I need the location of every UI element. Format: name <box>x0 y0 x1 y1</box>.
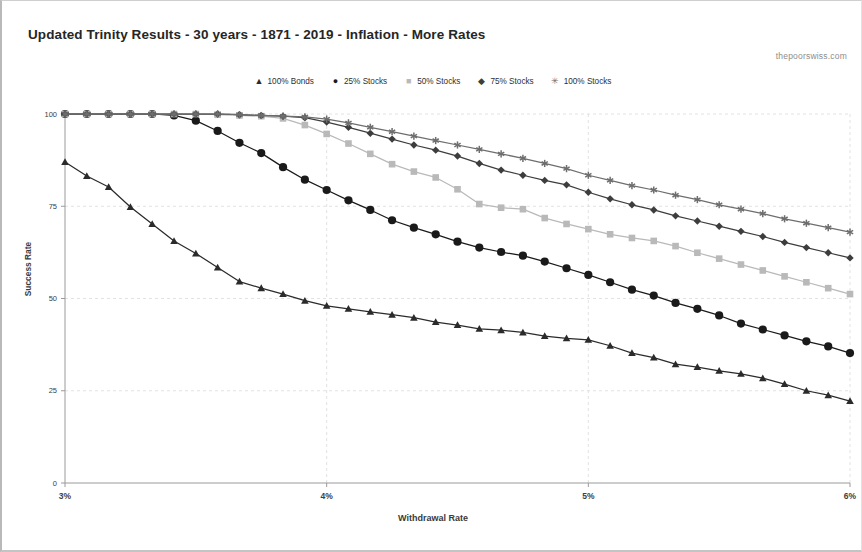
data-point-marker <box>498 204 505 211</box>
data-point-marker <box>759 267 766 274</box>
data-point-marker <box>301 176 309 184</box>
data-point-marker <box>825 249 832 256</box>
data-point-marker <box>541 258 549 266</box>
axis-tick-labels: 02550751003%4%5%6% <box>44 110 856 502</box>
series-line <box>65 162 850 401</box>
series-line <box>65 114 850 232</box>
data-point-marker <box>411 168 418 175</box>
data-point-marker <box>519 172 526 179</box>
data-point-marker <box>475 243 483 251</box>
data-point-marker <box>671 299 679 307</box>
data-point-marker <box>585 189 592 196</box>
data-point-marker <box>694 217 701 224</box>
data-point-marker <box>846 254 853 261</box>
data-point-marker <box>629 235 636 242</box>
data-point-marker <box>563 181 570 188</box>
data-point-marker <box>432 230 440 238</box>
data-point-marker <box>716 255 723 262</box>
data-point-marker <box>388 216 396 224</box>
data-point-marker <box>410 224 418 232</box>
data-point-marker <box>257 149 265 157</box>
axis-lines <box>61 114 850 487</box>
data-point-marker <box>650 291 658 299</box>
data-point-marker <box>192 250 200 257</box>
chart-plot-area: 02550751003%4%5%6% <box>2 1 862 552</box>
data-point-marker <box>214 264 222 271</box>
data-point-marker <box>693 305 701 313</box>
data-point-marker <box>780 331 788 339</box>
data-point-marker <box>781 239 788 246</box>
data-point-marker <box>323 186 331 194</box>
data-point-marker <box>846 349 854 357</box>
data-point-marker <box>432 174 439 181</box>
x-tick-label: 6% <box>844 491 857 501</box>
data-point-marker <box>584 271 592 279</box>
data-point-marker <box>825 285 832 292</box>
y-tick-label: 50 <box>49 294 57 303</box>
data-point-marker <box>519 252 527 260</box>
data-point-marker <box>562 264 570 272</box>
data-point-marker <box>824 342 832 350</box>
data-point-marker <box>606 195 613 202</box>
data-point-marker <box>366 206 374 214</box>
data-point-marker <box>235 139 243 147</box>
data-point-marker <box>497 166 504 173</box>
data-point-marker <box>694 249 701 256</box>
x-tick-label: 4% <box>321 491 334 501</box>
data-point-marker <box>715 311 723 319</box>
data-point-marker <box>497 248 505 256</box>
data-point-marker <box>628 201 635 208</box>
chart-page: Updated Trinity Results - 30 years - 187… <box>0 0 862 552</box>
data-point-marker <box>454 152 461 159</box>
data-point-marker <box>432 146 439 153</box>
data-point-marker <box>388 135 395 142</box>
data-point-marker <box>236 278 244 285</box>
data-point-marker <box>847 291 854 298</box>
series-100-stocks <box>62 110 853 235</box>
y-tick-label: 100 <box>44 110 57 119</box>
data-point-marker <box>650 206 657 213</box>
data-point-marker <box>453 238 461 246</box>
data-point-marker <box>585 226 592 233</box>
x-axis-title: Withdrawal Rate <box>2 513 862 523</box>
data-point-marker <box>192 117 200 125</box>
data-point-marker <box>105 183 113 190</box>
y-axis-title: Success Rate <box>23 242 33 296</box>
data-point-marker <box>410 141 417 148</box>
data-point-marker <box>672 212 679 219</box>
data-point-marker <box>737 319 745 327</box>
data-point-marker <box>715 222 722 229</box>
data-series-layer <box>61 110 854 404</box>
data-point-marker <box>737 228 744 235</box>
data-point-marker <box>541 215 548 222</box>
data-point-marker <box>672 243 679 250</box>
data-point-marker <box>323 131 330 138</box>
data-point-marker <box>214 127 222 135</box>
data-point-marker <box>61 158 69 165</box>
data-point-marker <box>279 163 287 171</box>
x-tick-label: 5% <box>582 491 595 501</box>
series-100-bonds <box>61 158 854 404</box>
data-point-marker <box>344 196 352 204</box>
data-point-marker <box>606 278 614 286</box>
data-point-marker <box>476 160 483 167</box>
data-point-marker <box>83 172 91 179</box>
series-line <box>65 114 850 294</box>
data-point-marker <box>563 221 570 228</box>
data-point-marker <box>738 261 745 268</box>
data-point-marker <box>781 273 788 280</box>
data-point-marker <box>803 244 810 251</box>
data-point-marker <box>802 337 810 345</box>
data-point-marker <box>628 286 636 294</box>
data-point-marker <box>302 122 309 129</box>
y-tick-label: 25 <box>49 386 57 395</box>
data-point-marker <box>389 161 396 168</box>
data-point-marker <box>367 151 374 158</box>
data-point-marker <box>759 325 767 333</box>
series-50-stocks <box>62 111 854 298</box>
data-point-marker <box>759 233 766 240</box>
x-tick-label: 3% <box>59 491 72 501</box>
data-point-marker <box>650 238 657 245</box>
y-tick-label: 75 <box>49 202 57 211</box>
series-line <box>65 114 850 353</box>
